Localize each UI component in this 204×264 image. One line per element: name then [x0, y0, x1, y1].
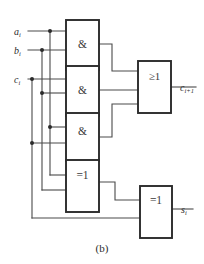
output-label-carry: ci+1	[180, 82, 194, 94]
input-label-b: bi	[14, 45, 21, 57]
and-gate-1-symbol: &	[78, 38, 87, 50]
xor-gate-1-body[interactable]	[66, 160, 99, 212]
or-gate-body[interactable]	[138, 61, 171, 113]
or-gate-symbol: ≥1	[149, 70, 161, 82]
input-label-a: ai	[14, 26, 21, 38]
junction-c-to-and3	[30, 141, 34, 145]
junction-b-to-and2	[40, 91, 44, 95]
gate-and-1[interactable]: &	[66, 20, 99, 70]
gate-and-3[interactable]: &	[66, 113, 99, 161]
and-gate-3-symbol: &	[78, 125, 87, 137]
and-gate-2-symbol: &	[78, 84, 87, 96]
figure-caption: (b)	[96, 242, 109, 255]
wire-and3-to-or	[99, 104, 138, 137]
xor-gate-1-symbol: =1	[76, 169, 88, 181]
junction-b-bus	[40, 48, 44, 52]
gate-and-2[interactable]: &	[66, 66, 99, 116]
junction-c-bus	[30, 77, 34, 81]
wire-junctions	[30, 29, 52, 145]
junction-a-to-and3	[48, 125, 52, 129]
input-label-c: ci	[14, 74, 20, 86]
junction-a-bus	[48, 29, 52, 33]
output-label-sum: si	[181, 204, 187, 216]
gate-or[interactable]: ≥1	[138, 61, 171, 113]
gate-xor-2[interactable]: =1	[140, 186, 172, 238]
gate-xor-1[interactable]: =1	[66, 160, 99, 212]
full-adder-logic-diagram: & & & ≥1 =1 =1 ai bi ci ci+1 si (b)	[0, 0, 204, 264]
xor-gate-2-symbol: =1	[150, 194, 162, 206]
and-gate-3-body[interactable]	[66, 113, 99, 161]
wire-xor1-to-xor2	[99, 182, 140, 200]
wire-and1-to-or	[99, 44, 138, 71]
